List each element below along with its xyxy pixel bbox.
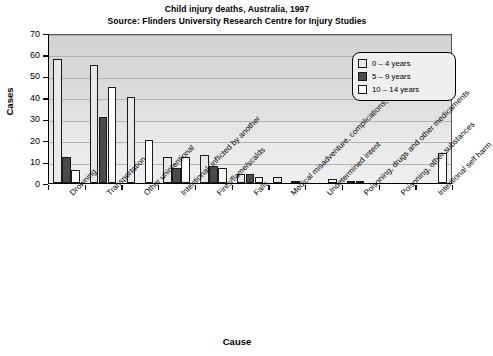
y-axis-tick-label: 30 — [10, 115, 40, 124]
bar — [246, 174, 255, 183]
bar — [99, 117, 108, 183]
bar-group — [86, 35, 123, 183]
x-axis-title: Cause — [0, 336, 474, 347]
legend-item-label: 0 – 4 years — [372, 59, 411, 68]
y-axis-tick-label: 10 — [10, 158, 40, 167]
bar-group — [269, 35, 306, 183]
bar — [108, 87, 117, 183]
bar — [90, 65, 99, 183]
bar — [273, 177, 282, 183]
y-axis-title: Cases — [4, 72, 15, 132]
y-axis-tick-label: 50 — [10, 72, 40, 81]
legend-item: 5 – 9 years — [358, 70, 450, 83]
bar — [53, 59, 62, 183]
legend-item: 0 – 4 years — [358, 57, 450, 70]
bar — [62, 157, 71, 183]
legend-swatch-icon — [358, 85, 367, 94]
chart-legend: 0 – 4 years5 – 9 years10 – 14 years — [352, 52, 456, 101]
bar — [356, 181, 365, 183]
chart-title-block: Child injury deaths, Australia, 1997 Sou… — [0, 4, 474, 27]
y-axis-tick-label: 20 — [10, 137, 40, 146]
y-axis-tick-label: 40 — [10, 94, 40, 103]
bar-group — [49, 35, 86, 183]
legend-swatch-icon — [358, 59, 367, 68]
bar — [347, 181, 356, 183]
x-axis-tick-labels: DrowningTransportationOther unintentiona… — [0, 188, 474, 328]
y-axis-tick-label: 70 — [10, 30, 40, 39]
chart-subtitle: Source: Flinders University Research Cen… — [0, 16, 474, 28]
legend-item-label: 5 – 9 years — [372, 72, 411, 81]
chart-title: Child injury deaths, Australia, 1997 — [0, 4, 474, 16]
legend-item-label: 10 – 14 years — [372, 85, 419, 94]
legend-item: 10 – 14 years — [358, 83, 450, 96]
legend-swatch-icon — [358, 72, 367, 81]
y-axis-tick-label: 60 — [10, 51, 40, 60]
